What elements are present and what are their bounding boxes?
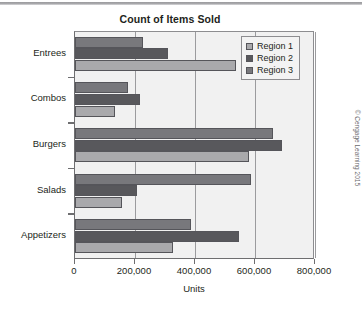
chart-figure: Count of Items Sold AppetizersSaladsBurg… [0,0,362,309]
bar-region-1 [75,197,122,208]
legend-label: Region 2 [257,53,293,63]
legend-swatch-icon [246,55,253,62]
value-tick [134,259,135,264]
category-label: Combos [0,92,66,103]
category-tick [68,122,74,124]
category-label: Burgers [0,138,66,149]
bar-region-1 [75,151,249,162]
top-rule-divider [0,2,362,5]
category-tick [68,77,74,79]
value-tick [194,259,195,264]
legend-item: Region 3 [246,64,293,76]
value-tick [254,259,255,264]
bar-group [75,214,313,260]
bar-region-1 [75,106,115,117]
bar-region-2 [75,185,137,196]
bar-region-3 [75,174,251,185]
bar-region-3 [75,82,128,93]
category-tick [68,213,74,215]
category-label: Entrees [0,47,66,58]
chart-title: Count of Items Sold [0,13,340,25]
bar-region-3 [75,128,273,139]
bar-region-2 [75,231,239,242]
category-tick [68,168,74,170]
category-label: Appetizers [0,229,66,240]
bar-group [75,169,313,215]
legend-swatch-icon [246,43,253,50]
copyright-credit: © Cengage Learning 2015 [354,110,361,186]
gridline [315,32,316,258]
legend-label: Region 3 [257,65,293,75]
category-label: Salads [0,184,66,195]
bar-region-1 [75,242,173,253]
bar-region-3 [75,219,191,230]
legend-item: Region 1 [246,40,293,52]
bar-group [75,78,313,124]
bar-region-2 [75,48,168,59]
legend-swatch-icon [246,67,253,74]
chart-legend: Region 1Region 2Region 3 [241,36,300,80]
value-tick [314,259,315,264]
x-axis-title: Units [74,283,314,294]
bar-region-1 [75,60,236,71]
legend-item: Region 2 [246,52,293,64]
value-tick [74,259,75,264]
bar-region-2 [75,94,140,105]
bar-region-2 [75,140,282,151]
bar-region-3 [75,37,143,48]
bar-group [75,123,313,169]
value-tick-label: 800,000 [279,265,349,276]
legend-label: Region 1 [257,41,293,51]
